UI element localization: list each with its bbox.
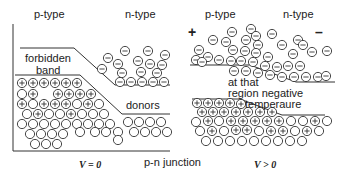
right-electrons xyxy=(191,24,331,81)
donors-label: donors xyxy=(126,100,160,111)
note-line-3: temperaure xyxy=(245,99,301,110)
left-voltage-label: V = 0 xyxy=(79,160,101,170)
right-voltage-label: V > 0 xyxy=(254,160,276,170)
forbidden-band-label-2: band xyxy=(36,65,60,76)
right-p-type-label: p-type xyxy=(205,9,236,20)
pn-junction-caption: p-n junction xyxy=(144,157,201,168)
left-electrons xyxy=(97,46,169,86)
right-n-type-label: n-type xyxy=(283,9,314,20)
plus-sign: + xyxy=(188,25,196,39)
minus-sign: – xyxy=(315,25,323,39)
forbidden-band-label-1: forbidden xyxy=(25,53,71,64)
left-p-type-label: p-type xyxy=(34,9,65,20)
left-n-type-label: n-type xyxy=(125,9,156,20)
